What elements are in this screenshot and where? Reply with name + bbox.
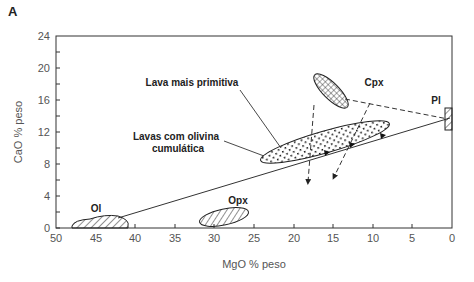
svg-text:20: 20: [38, 62, 50, 74]
lava-primitiva-label: Lava mais primitiva: [146, 77, 239, 88]
svg-text:8: 8: [44, 158, 50, 170]
svg-text:12: 12: [38, 126, 50, 138]
x-tick-labels: 50 45 40 35 30 25 20 15 10 5 0: [50, 232, 455, 244]
panel-label: A: [8, 4, 18, 19]
svg-text:20: 20: [288, 232, 300, 244]
svg-text:30: 30: [208, 232, 220, 244]
svg-text:16: 16: [38, 94, 50, 106]
svg-text:25: 25: [248, 232, 260, 244]
x-axis: [135, 224, 412, 228]
svg-text:40: 40: [129, 232, 141, 244]
svg-text:5: 5: [409, 232, 415, 244]
cpx-field: [309, 69, 353, 113]
y-axis: [56, 52, 60, 228]
svg-text:50: 50: [50, 232, 62, 244]
plot-frame: [56, 36, 452, 228]
opx-field: [198, 204, 250, 230]
cpx-label: Cpx: [365, 77, 384, 88]
x-axis-label: MgO % peso: [222, 258, 286, 270]
lavas-cumulatica-label-2: cumulática: [152, 143, 205, 154]
y-tick-labels: 0 4 8 12 16 20 24: [38, 30, 50, 234]
svg-text:24: 24: [38, 30, 50, 42]
lavas-cumulatica-label-1: Lavas com olivina: [133, 131, 220, 142]
lava-primitiva-leader: [240, 90, 281, 148]
lavas-cumulatica-leader: [224, 141, 264, 156]
svg-text:35: 35: [169, 232, 181, 244]
y-axis-label: CaO % peso: [12, 101, 24, 163]
pl-field: [445, 108, 452, 130]
svg-text:4: 4: [44, 190, 50, 202]
svg-text:0: 0: [449, 232, 455, 244]
svg-text:10: 10: [367, 232, 379, 244]
opx-label: Opx: [228, 195, 248, 206]
svg-text:45: 45: [90, 232, 102, 244]
svg-text:15: 15: [327, 232, 339, 244]
ol-field: [72, 215, 128, 228]
pl-label: Pl: [431, 95, 441, 106]
chart-canvas: A 0 4 8 12 16 20 24 50 45: [0, 0, 474, 282]
ol-label: Ol: [91, 203, 102, 214]
lavas-field: [258, 113, 393, 171]
